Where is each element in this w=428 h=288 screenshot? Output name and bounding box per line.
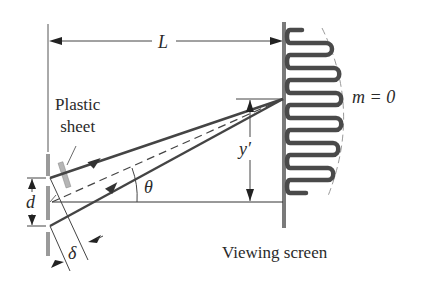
slit-spacing-d-label: d	[26, 193, 35, 211]
slit-barrier	[46, 154, 50, 256]
theta-angle-arc	[132, 168, 137, 202]
plastic-label-line2: sheet	[55, 116, 100, 138]
y-prime-label: y′	[239, 140, 251, 158]
viewing-screen-label: Viewing screen	[222, 244, 327, 261]
path-difference-delta-label: δ	[68, 244, 76, 262]
distance-L-label: L	[158, 33, 168, 51]
path-difference-delta-construction	[50, 178, 103, 271]
double-slit-diagram	[0, 0, 428, 288]
m-equals-zero-text: m = 0	[352, 87, 395, 107]
central-max-label: m = 0	[352, 88, 395, 106]
plastic-sheet-pointer	[67, 146, 76, 165]
plastic-label-line1: Plastic	[55, 94, 100, 116]
viewing-screen-bar	[282, 22, 286, 228]
plastic-sheet-label: Plastic sheet	[55, 94, 100, 138]
theta-label: θ	[144, 178, 153, 196]
